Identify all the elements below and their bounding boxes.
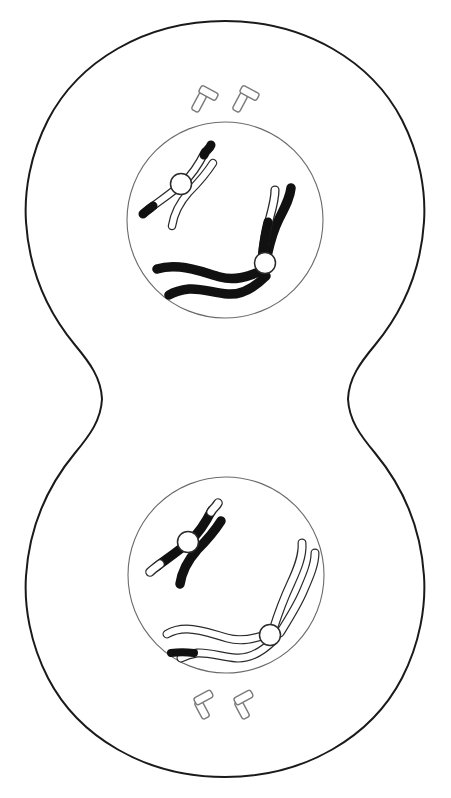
centromere [255,253,276,274]
diagram-canvas: Telophase / Cytokinesis of Mitosis A div… [0,0,451,798]
chromosome-dark-tip [171,652,194,653]
centromere [178,532,199,553]
cell-division-diagram [0,0,451,798]
centromere [260,625,281,646]
chromosome-dark-tip [204,145,211,155]
centromere [171,174,192,195]
nucleus-top [127,122,323,318]
